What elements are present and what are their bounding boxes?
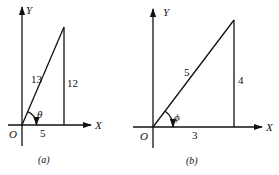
opposite-label-b: 4 xyxy=(238,74,244,86)
panel-a: Y X O 13 12 5 θ (a) xyxy=(8,4,103,166)
adjacent-label-a: 5 xyxy=(40,127,46,139)
right-triangle-diagram: Y X O 13 12 5 θ (a) Y X O 5 4 3 ϕ (b) xyxy=(0,0,279,175)
y-axis-label-a: Y xyxy=(26,4,34,16)
origin-label-a: O xyxy=(9,128,17,140)
origin-label-b: O xyxy=(140,130,148,142)
angle-arc-a xyxy=(28,112,37,125)
angle-label-theta: θ xyxy=(37,108,43,120)
hypotenuse-label-b: 5 xyxy=(184,66,190,78)
hypotenuse-label-a: 13 xyxy=(31,73,43,85)
hypotenuse-a xyxy=(22,27,64,125)
caption-a: (a) xyxy=(38,154,50,166)
adjacent-label-b: 3 xyxy=(192,129,198,141)
caption-b: (b) xyxy=(186,155,198,167)
y-axis-label-b: Y xyxy=(163,6,171,18)
panel-b: Y X O 5 4 3 ϕ (b) xyxy=(133,6,274,167)
x-axis-label-b: X xyxy=(265,121,274,133)
x-axis-label-a: X xyxy=(94,119,103,131)
opposite-label-a: 12 xyxy=(67,77,78,89)
angle-arc-b xyxy=(165,111,173,127)
angle-label-phi: ϕ xyxy=(174,111,180,123)
